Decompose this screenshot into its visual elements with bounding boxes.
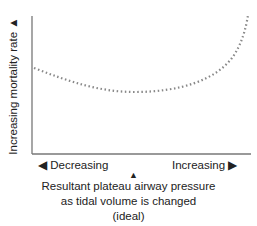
y-axis-label: Increasing mortality rate ▲ <box>7 17 19 154</box>
x-caption-2: as tidal volume is changed <box>0 194 257 209</box>
x-caption-1: Resultant plateau airway pressure <box>0 179 257 194</box>
x-label-decreasing: ◀ Decreasing <box>38 158 108 172</box>
x-caption-3: (ideal) <box>0 209 257 224</box>
x-label-increasing: Increasing ▶ <box>172 158 237 172</box>
mortality-curve <box>34 15 248 92</box>
